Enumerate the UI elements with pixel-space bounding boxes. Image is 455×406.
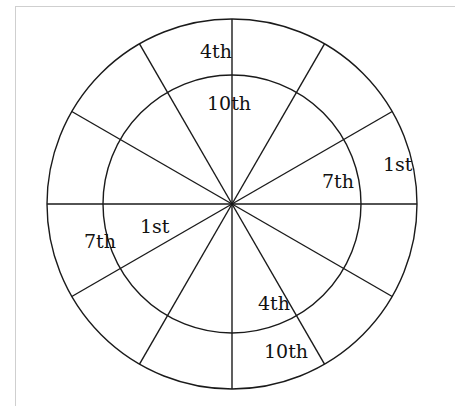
spoke-line xyxy=(232,112,392,205)
label-inner-4th: 4th xyxy=(258,292,290,314)
label-inner-7th: 7th xyxy=(322,170,354,192)
label-outer-7th: 7th xyxy=(84,230,116,252)
spoke-line xyxy=(140,44,233,204)
spoke-line xyxy=(232,44,325,204)
spoke-line xyxy=(72,112,232,205)
label-outer-1st: 1st xyxy=(383,153,413,175)
label-inner-10th: 10th xyxy=(207,92,251,114)
spoke-line xyxy=(232,204,392,297)
house-labels: 4th 10th 1st 7th 1st 7th 4th 10th xyxy=(84,40,413,362)
label-inner-1st: 1st xyxy=(140,215,170,237)
label-outer-4th: 4th xyxy=(200,40,232,62)
label-outer-10th: 10th xyxy=(264,340,308,362)
spokes xyxy=(47,19,417,389)
